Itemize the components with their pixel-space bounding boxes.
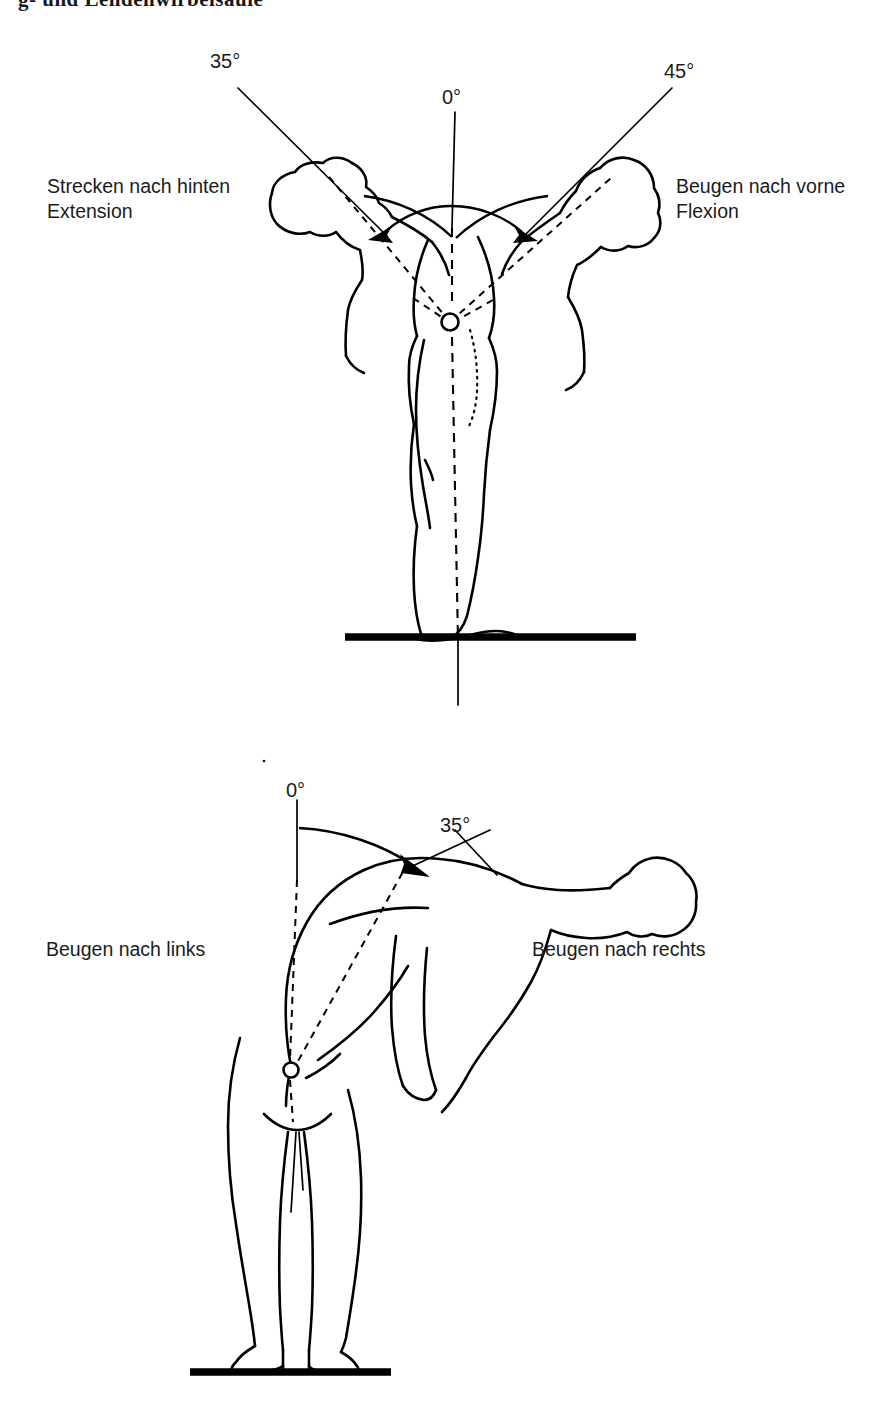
- label-extension-left: Strecken nach hinten Extension: [47, 174, 230, 224]
- angle-label-flexion: 45°: [664, 60, 694, 83]
- label-flexion-right: Beugen nach vorne Flexion: [676, 174, 845, 224]
- angle-label-lateral-flexion: 35°: [440, 814, 470, 837]
- gluteal-cleft-2: [299, 1132, 303, 1190]
- body-neutral-legs: [409, 237, 524, 641]
- arc-flexion: [452, 206, 522, 232]
- body-extension: [270, 158, 449, 373]
- pivot-point-sagittal: [442, 314, 459, 331]
- axis-neutral-frontal: [290, 880, 297, 1060]
- axis-extension: [325, 172, 450, 322]
- arrowhead-flexion: [513, 226, 538, 243]
- body-flexion: [502, 158, 660, 390]
- buttock-fold: [264, 1114, 331, 1130]
- arm-hanging: [391, 936, 436, 1100]
- diagram-page: g- und Lendenwirbelsäule: [0, 0, 890, 1409]
- frontal-figure: [0, 760, 890, 1400]
- gluteal-cleft: [291, 1132, 296, 1212]
- pivot-point-frontal: [284, 1063, 299, 1078]
- legs-posterior: [228, 1038, 361, 1372]
- zero-reference-upper: [452, 112, 455, 228]
- axis-neutral-frontal-lower: [290, 1080, 293, 1122]
- label-bend-right: Beugen nach rechts: [532, 937, 705, 962]
- label-bend-left: Beugen nach links: [46, 937, 205, 962]
- scapula-crease: [330, 908, 428, 924]
- angle-label-neutral-upper: 0°: [442, 86, 461, 109]
- angle-label-extension: 35°: [210, 50, 240, 73]
- axis-spine-inclined: [292, 870, 404, 1072]
- angle-label-neutral-lower: 0°: [286, 779, 305, 802]
- leader-line-flexion: [524, 88, 672, 236]
- body-lateral-flexion: [286, 858, 697, 1112]
- axis-neutral-lower: [452, 337, 458, 640]
